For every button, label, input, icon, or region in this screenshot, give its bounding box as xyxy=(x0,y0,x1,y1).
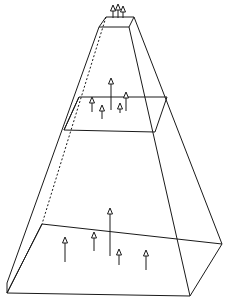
back-left-hidden-edge xyxy=(42,17,106,224)
top-cap-arrows xyxy=(111,4,126,18)
up-arrow-icon xyxy=(109,78,114,110)
middle-left-edge xyxy=(64,97,79,130)
up-arrow-icon xyxy=(118,103,123,113)
bottom-slab-arrows xyxy=(63,208,149,270)
frustum-diagram xyxy=(0,0,228,301)
up-arrow-icon xyxy=(100,105,105,119)
up-arrow-icon xyxy=(90,97,95,112)
up-arrow-icon xyxy=(111,5,116,18)
up-arrow-icon xyxy=(144,250,149,270)
diagram-svg xyxy=(0,0,228,301)
up-arrow-icon xyxy=(92,232,97,251)
up-arrow-icon xyxy=(63,237,68,262)
up-arrow-icon xyxy=(117,249,122,265)
arrow-layer xyxy=(63,4,149,270)
back-right-edge xyxy=(134,17,222,244)
front-left-edge xyxy=(7,27,99,283)
side-edges xyxy=(7,17,222,296)
front-right-edge xyxy=(129,27,190,296)
bottom-slab xyxy=(7,224,222,296)
up-arrow-icon xyxy=(121,6,126,18)
bottom-slab-face xyxy=(7,224,222,296)
up-arrow-icon xyxy=(124,92,129,111)
up-arrow-icon xyxy=(116,4,121,18)
middle-slice-arrows xyxy=(90,78,129,119)
